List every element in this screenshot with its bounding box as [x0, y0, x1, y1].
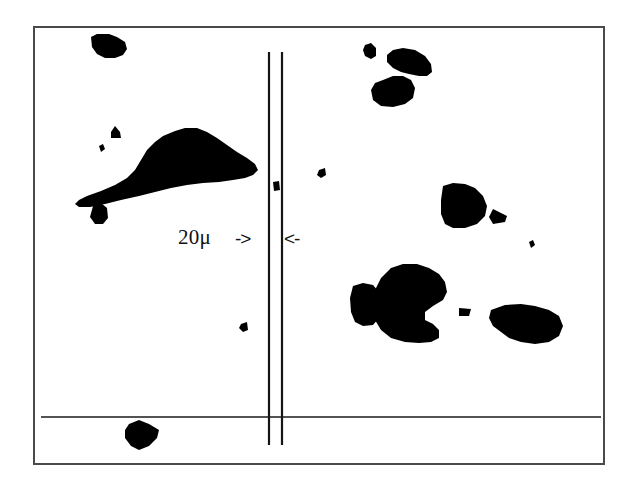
particle-right-triangle	[489, 209, 507, 224]
particle-line-mark	[273, 181, 280, 191]
particle-right-upper	[441, 183, 487, 228]
particle-left-dot	[99, 144, 105, 152]
particle-mid-dot-a	[317, 168, 326, 178]
particle-canvas	[35, 28, 603, 463]
particle-left-large	[75, 128, 258, 207]
particle-lower-right-tiny	[459, 308, 471, 316]
arrow-left-icon: <-	[284, 229, 299, 248]
particle-top-right-a	[387, 48, 432, 76]
micrograph-frame	[33, 26, 605, 465]
scale-label: 20μ	[178, 227, 211, 248]
particle-lower-right-big	[373, 264, 447, 343]
particle-top-right-b	[371, 76, 415, 107]
particle-bottom	[125, 420, 159, 450]
particle-right-dot	[529, 240, 535, 248]
scale-bar-lines	[269, 52, 282, 445]
arrow-right-icon: ->	[235, 229, 250, 248]
particle-top-right-small	[363, 43, 376, 59]
figure-root: 20μ -> <-	[0, 0, 635, 488]
particle-left-small-triangle	[111, 126, 121, 138]
particle-top-left	[91, 34, 127, 58]
particle-shapes	[75, 34, 563, 450]
particle-lower-right-c	[489, 304, 563, 344]
particle-mid-dot-b	[239, 322, 248, 332]
